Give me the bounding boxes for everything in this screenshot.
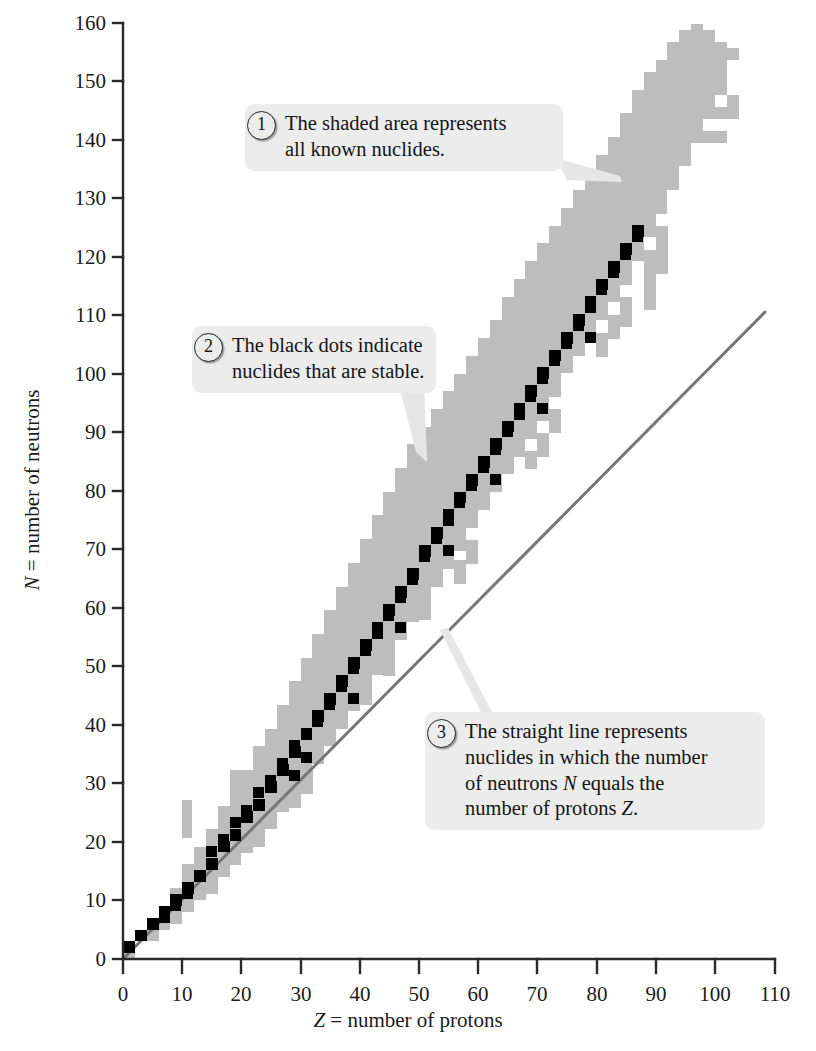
callout-3-line-3a: of neutrons (465, 772, 563, 794)
x-tick-40: 40 (350, 984, 371, 1005)
x-tick-50: 50 (409, 984, 430, 1005)
callout-box-1: 1 The shaded area represents all known n… (245, 104, 563, 171)
callout-3-symbol-n: N (563, 772, 577, 794)
callout-box-3: 3 The straight line represents nuclides … (425, 712, 765, 830)
y-tick-80: 80 (62, 481, 106, 502)
callout-marker-1: 1 (247, 111, 276, 140)
callout-3-line-4b: . (633, 797, 638, 819)
callout-3-symbol-z: Z (622, 797, 633, 819)
y-axis-title-text: = number of neutrons (20, 390, 44, 577)
callout-1-line-1: The shaded area represents (285, 111, 549, 137)
y-tick-130: 130 (52, 188, 106, 209)
x-axis-title: Z = number of protons (313, 1008, 502, 1033)
x-tick-70: 70 (527, 984, 548, 1005)
callout-marker-3: 3 (427, 719, 456, 748)
x-tick-20: 20 (231, 984, 252, 1005)
leader-line-3 (440, 628, 492, 712)
y-tick-0: 0 (62, 949, 106, 970)
callout-1-line-2: all known nuclides. (285, 137, 549, 163)
callout-3-line-3b: equals the (577, 772, 665, 794)
callout-2-line-2: nuclides that are stable. (232, 359, 422, 385)
y-axis-title: N = number of neutrons (20, 390, 45, 591)
x-tick-110: 110 (760, 984, 791, 1005)
callout-3-line-4: number of protons Z. (465, 796, 751, 822)
y-axis-ticks (113, 23, 123, 959)
y-tick-120: 120 (52, 247, 106, 268)
nuclide-chart-figure: 0 10 20 30 40 50 60 70 80 90 100 110 120… (0, 0, 816, 1051)
y-axis-symbol: N (20, 576, 44, 590)
callout-box-2: 2 The black dots indicate nuclides that … (192, 326, 436, 393)
y-tick-160: 160 (52, 13, 106, 34)
y-tick-60: 60 (62, 598, 106, 619)
y-tick-40: 40 (62, 715, 106, 736)
x-tick-100: 100 (699, 984, 731, 1005)
x-tick-10: 10 (172, 984, 193, 1005)
x-tick-80: 80 (587, 984, 608, 1005)
callout-3-line-1: The straight line represents (465, 719, 751, 745)
y-tick-50: 50 (62, 656, 106, 677)
x-tick-60: 60 (468, 984, 489, 1005)
y-tick-20: 20 (62, 832, 106, 853)
y-tick-10: 10 (62, 890, 106, 911)
callout-3-line-2: nuclides in which the number (465, 745, 751, 771)
callout-3-line-4a: number of protons (465, 797, 622, 819)
y-tick-150: 150 (52, 71, 106, 92)
y-tick-70: 70 (62, 539, 106, 560)
y-tick-140: 140 (52, 130, 106, 151)
x-axis-ticks (123, 959, 775, 973)
x-tick-90: 90 (646, 984, 667, 1005)
y-tick-90: 90 (62, 422, 106, 443)
callout-marker-2: 2 (194, 333, 223, 362)
x-axis-symbol: Z (313, 1008, 325, 1032)
y-tick-100: 100 (52, 364, 106, 385)
x-tick-0: 0 (118, 984, 129, 1005)
x-tick-30: 30 (291, 984, 312, 1005)
y-tick-110: 110 (52, 305, 106, 326)
callout-2-line-1: The black dots indicate (232, 333, 422, 359)
y-tick-30: 30 (62, 773, 106, 794)
callout-3-line-3: of neutrons N equals the (465, 771, 751, 797)
x-axis-title-text: = number of protons (325, 1008, 503, 1032)
